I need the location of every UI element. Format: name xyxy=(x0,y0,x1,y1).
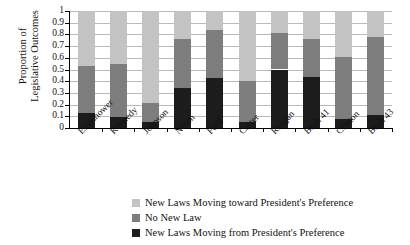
y-axis-tick-label: 0.1 xyxy=(52,112,64,122)
bar-segment-toward-president xyxy=(335,11,352,57)
bar xyxy=(110,11,127,128)
bar-segment-toward-president xyxy=(206,11,223,30)
legend-label: No New Law xyxy=(145,212,202,223)
y-axis-tick-label: 0.4 xyxy=(52,76,64,86)
bar-segment-toward-president xyxy=(78,11,95,66)
y-axis-tick-label: 0 xyxy=(59,123,64,133)
legend-item: New Laws Moving from President's Prefere… xyxy=(132,226,353,239)
legend-label: New Laws Moving from President's Prefere… xyxy=(145,227,344,238)
bar xyxy=(78,11,95,128)
y-axis-tick-label: 0.6 xyxy=(52,53,64,63)
y-axis-tick-label: 0.2 xyxy=(52,100,64,110)
legend-label: New Laws Moving toward President's Prefe… xyxy=(145,197,353,208)
y-axis-ticks: 10.90.80.70.60.50.40.30.20.10 xyxy=(0,0,69,129)
stacked-bar-chart: Proportion of Legislative Outcomes 10.90… xyxy=(0,0,410,245)
bar xyxy=(174,11,191,128)
bar-segment-no-new-law xyxy=(335,57,352,119)
bar-segment-no-new-law xyxy=(174,39,191,88)
plot-area xyxy=(69,11,392,129)
bar xyxy=(303,11,320,128)
bar-segment-toward-president xyxy=(271,11,288,33)
y-axis-tick-label: 0.5 xyxy=(52,65,64,75)
bar-segment-toward-president xyxy=(174,11,191,39)
y-axis-tick-label: 0.7 xyxy=(52,41,64,51)
bar xyxy=(367,11,384,128)
bar-group xyxy=(70,11,392,128)
bar-segment-toward-president xyxy=(239,11,256,81)
legend-swatch-icon xyxy=(132,199,140,207)
bar-segment-no-new-law xyxy=(367,37,384,115)
y-axis-tick-label: 0.9 xyxy=(52,18,64,28)
bar-segment-no-new-law xyxy=(110,64,127,118)
bar-segment-no-new-law xyxy=(206,30,223,78)
bar-segment-toward-president xyxy=(110,11,127,64)
legend-swatch-icon xyxy=(132,229,140,237)
y-axis-tick-label: 1 xyxy=(59,6,64,16)
bar-segment-no-new-law xyxy=(271,33,288,69)
bar xyxy=(206,11,223,128)
bar xyxy=(335,11,352,128)
legend-item: New Laws Moving toward President's Prefe… xyxy=(132,196,353,209)
y-axis-tick-label: 0.8 xyxy=(52,30,64,40)
bar xyxy=(239,11,256,128)
bar-segment-toward-president xyxy=(367,11,384,37)
x-axis-tick-mark xyxy=(392,128,393,132)
legend-swatch-icon xyxy=(132,214,140,222)
bar-segment-toward-president xyxy=(142,11,159,103)
bar xyxy=(142,11,159,128)
bar-segment-toward-president xyxy=(303,11,320,39)
bar-segment-no-new-law xyxy=(78,66,95,113)
x-axis-labels: EisenhowerKennedyJohnsonNixonFordCarterR… xyxy=(69,129,391,187)
y-axis-tick-label: 0.3 xyxy=(52,88,64,98)
bar xyxy=(271,11,288,128)
chart-legend: New Laws Moving toward President's Prefe… xyxy=(132,196,353,239)
bar-segment-no-new-law xyxy=(303,39,320,76)
legend-item: No New Law xyxy=(132,211,353,224)
